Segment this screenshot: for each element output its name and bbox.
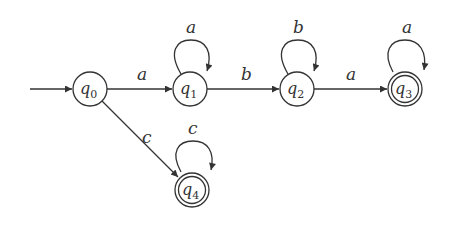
loop-label-q4: c — [188, 118, 198, 138]
loop-label-q2: b — [293, 17, 304, 37]
loop-q3 — [388, 40, 425, 72]
edge-label-q0-q1: a — [137, 64, 147, 84]
state-q3-accepting: q3 — [388, 72, 422, 106]
state-q2: q2 — [280, 72, 314, 106]
edge-q0-q4 — [102, 101, 178, 177]
loop-q1 — [174, 40, 209, 74]
state-q0: q0 — [73, 72, 107, 106]
loop-label-q1: a — [186, 17, 196, 37]
loop-q4 — [176, 141, 212, 172]
automaton-diagram: a b a c a b a c q0 q1 q2 q3 q4 — [0, 0, 449, 227]
edge-label-q1-q2: b — [241, 64, 252, 84]
edge-label-q0-q4: c — [142, 127, 152, 147]
state-q1: q1 — [173, 72, 207, 106]
state-q4-accepting: q4 — [175, 173, 209, 207]
loop-label-q3: a — [402, 17, 412, 37]
edge-label-q2-q3: a — [346, 64, 356, 84]
loop-q2 — [281, 40, 316, 74]
